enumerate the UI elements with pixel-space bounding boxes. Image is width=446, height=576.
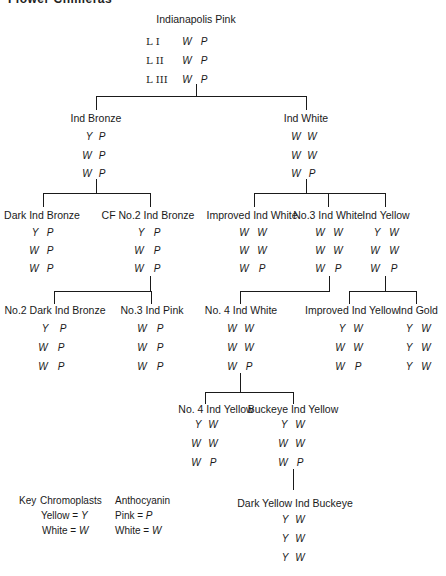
genotype-chromoplast: W	[315, 263, 324, 275]
connector-line	[416, 291, 417, 304]
genotype-anthocyanin: W	[333, 245, 342, 257]
genotype-chromoplast: W	[38, 361, 47, 373]
genotype-chromoplast: W	[278, 438, 287, 450]
genotype-anthocyanin: P	[99, 150, 106, 162]
genotype-chromoplast: W	[137, 323, 146, 335]
connector-line	[293, 469, 294, 490]
connector-line	[54, 291, 151, 292]
key-title: Key	[19, 495, 36, 507]
genotype-anthocyanin: W	[389, 227, 398, 239]
key-white-symbol: W	[79, 525, 88, 536]
genotype-chromoplast: Y	[281, 419, 288, 431]
connector-line	[43, 193, 44, 207]
genotype-anthocyanin: P	[309, 168, 316, 180]
genotype-chromoplast: W	[137, 361, 146, 373]
genotype-anthocyanin: W	[295, 552, 304, 564]
genotype-chromoplast: Y	[42, 323, 49, 335]
connector-line	[306, 179, 307, 194]
genotype-anthocyanin: W	[257, 245, 266, 257]
genotype-anthocyanin: W	[353, 323, 362, 335]
connector-line	[385, 276, 386, 292]
connector-line	[329, 276, 330, 292]
node-label-no3-ind-white: No.3 Ind White	[293, 209, 362, 221]
node-label-dark-yellow-ind-buckeye: Dark Yellow Ind Buckeye	[237, 497, 353, 509]
genotype-chromoplast: W	[227, 342, 236, 354]
genotype-chromoplast: W	[82, 168, 91, 180]
genotype-anthocyanin: P	[60, 323, 67, 335]
genotype-anthocyanin: W	[295, 514, 304, 526]
genotype-chromoplast: W	[291, 131, 300, 143]
genotype-anthocyanin: P	[154, 227, 161, 239]
genotype-chromoplast: W	[182, 36, 191, 48]
genotype-anthocyanin: W	[295, 533, 304, 545]
key-white-label: White =	[115, 525, 152, 536]
key-anthocyanin-heading: Anthocyanin	[115, 495, 170, 507]
key-white-anthocyanin-entry: White = W	[115, 525, 161, 537]
genotype-anthocyanin: P	[259, 263, 266, 275]
key-chromoplasts-heading: Chromoplasts	[40, 495, 102, 507]
genotype-anthocyanin: P	[157, 361, 164, 373]
genotype-chromoplast: W	[227, 323, 236, 335]
key-yellow-entry: Yellow = Y	[41, 510, 88, 522]
layer-label-l2: L II	[146, 55, 164, 67]
genotype-chromoplast: W	[227, 361, 236, 373]
node-label-no2-dark-ind-bronze: No.2 Dark Ind Bronze	[5, 304, 106, 316]
genotype-chromoplast: W	[82, 150, 91, 162]
genotype-anthocyanin: P	[58, 361, 65, 373]
genotype-chromoplast: Y	[282, 552, 289, 564]
genotype-anthocyanin: W	[353, 342, 362, 354]
connector-line	[240, 373, 241, 393]
genotype-anthocyanin: P	[297, 457, 304, 469]
key-yellow-label: Yellow =	[41, 510, 81, 521]
genotype-anthocyanin: P	[335, 263, 342, 275]
connector-line	[254, 193, 255, 207]
node-label-dark-ind-bronze: Dark Ind Bronze	[4, 209, 80, 221]
genotype-chromoplast: Y	[406, 342, 413, 354]
genotype-anthocyanin: P	[157, 323, 164, 335]
node-label-no4-ind-white: No. 4 Ind White	[205, 304, 277, 316]
connector-line	[150, 276, 151, 292]
genotype-chromoplast: Y	[195, 419, 202, 431]
connector-line	[96, 179, 97, 194]
connector-line	[96, 96, 97, 110]
connector-line	[54, 291, 55, 304]
genotype-anthocyanin: W	[295, 438, 304, 450]
genotype-anthocyanin: P	[154, 263, 161, 275]
genotype-chromoplast: Y	[86, 131, 93, 143]
genotype-anthocyanin: W	[295, 419, 304, 431]
genotype-anthocyanin: P	[99, 168, 106, 180]
genotype-anthocyanin: P	[157, 342, 164, 354]
layer-label-l1: L I	[146, 36, 160, 48]
genotype-anthocyanin: P	[210, 457, 217, 469]
genotype-chromoplast: W	[191, 457, 200, 469]
key-pink-label: Pink =	[115, 510, 146, 521]
genotype-chromoplast: Y	[406, 361, 413, 373]
node-label-buckeye-ind-yellow: Buckeye Ind Yellow	[248, 403, 338, 415]
genotype-chromoplast: Y	[374, 227, 381, 239]
node-label-improved-ind-yellow: Improved Ind Yellow	[305, 304, 399, 316]
genotype-chromoplast: W	[134, 245, 143, 257]
figure-header: Flower Chimeras	[8, 0, 112, 6]
genotype-anthocyanin: W	[208, 419, 217, 431]
connector-line	[349, 291, 417, 292]
connector-line	[306, 96, 307, 110]
genotype-anthocyanin: W	[208, 438, 217, 450]
genotype-anthocyanin: P	[47, 227, 54, 239]
key-pink-symbol: P	[146, 510, 153, 521]
genotype-chromoplast: W	[239, 263, 248, 275]
key-white-label: White =	[42, 525, 79, 536]
genotype-anthocyanin: P	[355, 361, 362, 373]
key-white-chromoplast-entry: White = W	[42, 525, 88, 537]
genotype-chromoplast: W	[29, 245, 38, 257]
connector-line	[151, 291, 152, 304]
node-label-cf-no2-ind-bronze: CF No.2 Ind Bronze	[102, 209, 195, 221]
node-label-ind-white: Ind White	[284, 112, 328, 124]
genotype-chromoplast: Y	[138, 227, 145, 239]
genotype-chromoplast: Y	[406, 323, 413, 335]
genotype-chromoplast: W	[137, 342, 146, 354]
genotype-anthocyanin: P	[246, 361, 253, 373]
genotype-anthocyanin: P	[99, 131, 106, 143]
genotype-anthocyanin: P	[201, 55, 208, 67]
node-label-indianapolis-pink: Indianapolis Pink	[156, 13, 235, 25]
genotype-chromoplast: Y	[282, 514, 289, 526]
